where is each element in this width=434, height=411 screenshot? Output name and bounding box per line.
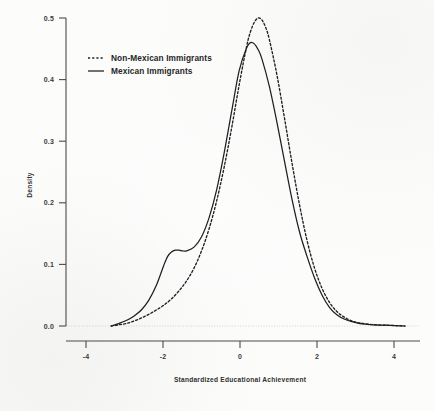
x-tick-label-2: 0 [238, 353, 242, 360]
legend: Non-Mexican Immigrants Mexican Immigrant… [88, 53, 212, 76]
x-tick-label-3: 2 [315, 353, 319, 360]
chart-canvas: 0.0 0.1 0.2 0.3 0.4 0.5 Density -4 -2 0 … [0, 0, 434, 411]
y-tick-label-5: 0.5 [44, 15, 54, 22]
y-tick-label-3: 0.3 [44, 138, 54, 145]
y-tick-label-4: 0.4 [44, 76, 54, 83]
y-axis-title: Density [26, 172, 34, 198]
legend-label-non-mexican-immigrants: Non-Mexican Immigrants [111, 53, 212, 63]
y-tick-label-0: 0.0 [44, 323, 54, 330]
x-axis-ticks [86, 341, 394, 348]
series-line-mexican-immigrants [111, 42, 405, 326]
y-tick-label-2: 0.2 [44, 199, 54, 206]
series-line-non-mexican-immigrants [111, 18, 405, 326]
y-tick-label-1: 0.1 [44, 261, 54, 268]
x-axis-title: Standardized Educational Achievement [174, 376, 307, 383]
legend-label-mexican-immigrants: Mexican Immigrants [111, 66, 193, 76]
x-tick-label-1: -2 [160, 353, 167, 360]
x-tick-label-4: 4 [392, 353, 396, 360]
y-axis-ticks [59, 18, 66, 326]
density-plot-figure: 0.0 0.1 0.2 0.3 0.4 0.5 Density -4 -2 0 … [0, 0, 434, 411]
x-tick-label-0: -4 [83, 353, 90, 360]
